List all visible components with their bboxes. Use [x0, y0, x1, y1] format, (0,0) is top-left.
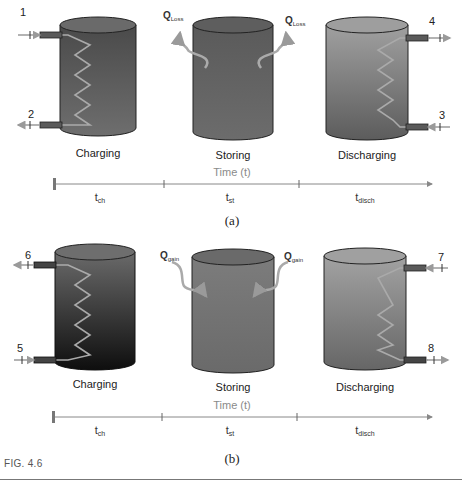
figure-caption: FIG. 4.6 [4, 458, 43, 469]
port-label: 6 [25, 249, 31, 261]
port-label: 3 [439, 109, 445, 121]
tank-charging-a [18, 17, 136, 136]
duration-storing: tst [200, 191, 260, 204]
time-axis-label: Time (t) [192, 399, 272, 411]
stage-label-storing: Storing [178, 381, 288, 393]
caption-rule [0, 479, 462, 480]
tank-charging-b [14, 244, 135, 370]
heat-loss-label: QLoss [163, 10, 183, 22]
duration-charging: tch [70, 191, 130, 204]
heat-gain-label: Qgain [284, 251, 303, 263]
port-label: 2 [28, 108, 34, 120]
stage-label-charging: Charging [43, 147, 153, 159]
port-label: 4 [429, 15, 435, 27]
tank-storing-b [172, 249, 288, 373]
timeline-a [53, 178, 432, 190]
duration-storing: tst [200, 424, 260, 437]
tes-diagram [0, 0, 462, 485]
port-label: 7 [438, 251, 444, 263]
stage-label-discharging: Discharging [312, 149, 422, 161]
stage-label-discharging: Discharging [310, 381, 420, 393]
port-label: 5 [17, 342, 23, 354]
time-axis-label: Time (t) [192, 166, 272, 178]
tank-storing-a [180, 17, 287, 140]
duration-discharging: tdisch [335, 424, 395, 437]
duration-discharging: tdisch [335, 191, 395, 204]
duration-charging: tch [70, 424, 130, 437]
heat-loss-label: QLoss [285, 15, 305, 27]
port-label: 8 [428, 342, 434, 354]
panel-label-b: (b) [212, 451, 252, 467]
panel-label-a: (a) [212, 213, 252, 229]
port-label: 1 [20, 6, 26, 18]
stage-label-storing: Storing [178, 149, 288, 161]
timeline-b [52, 411, 432, 423]
tank-discharging-a [326, 17, 450, 140]
stage-label-charging: Charging [40, 378, 150, 390]
heat-gain-label: Qgain [160, 250, 179, 262]
